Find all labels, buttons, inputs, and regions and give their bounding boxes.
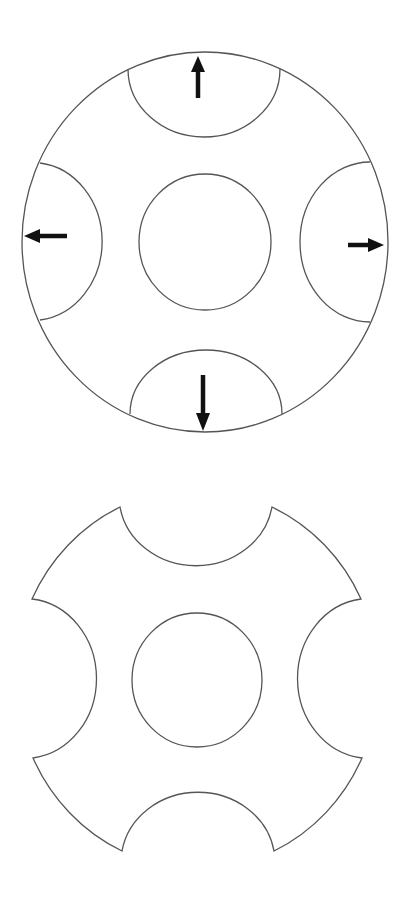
diagram-canvas [0, 0, 401, 899]
arrow-down-icon [196, 375, 210, 431]
right-segment-arc [300, 162, 370, 322]
top-segment-arc [128, 69, 280, 137]
arrow-right-icon [348, 238, 384, 252]
inner-circle [139, 174, 271, 310]
left-segment-arc [40, 163, 102, 320]
bottom-segment-arc [130, 350, 282, 414]
top-figure [22, 52, 388, 432]
arrow-left-icon [24, 229, 67, 243]
notched-disc-outline [32, 507, 362, 851]
arrow-up-icon [191, 56, 205, 98]
bottom-figure [32, 507, 362, 851]
